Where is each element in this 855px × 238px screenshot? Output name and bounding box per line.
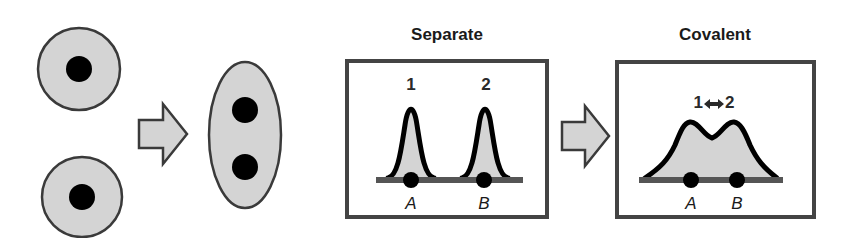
covalent-baseline bbox=[639, 177, 783, 183]
covalent-label-b: B bbox=[717, 194, 757, 214]
separate-title: Separate bbox=[367, 25, 527, 45]
nucleus-a-icon bbox=[683, 172, 699, 188]
peak-label-2: 2 bbox=[466, 75, 506, 95]
covalent-title: Covalent bbox=[635, 25, 795, 45]
nucleus-b-icon bbox=[729, 172, 745, 188]
separate-atom-bottom bbox=[42, 157, 122, 237]
separate-panel-frame bbox=[347, 61, 547, 217]
right-arrow-icon bbox=[562, 106, 609, 166]
double-arrow-icon bbox=[704, 98, 724, 110]
separate-atom-top bbox=[38, 28, 120, 110]
peak-label-1: 1 bbox=[391, 75, 431, 95]
separate-baseline bbox=[376, 177, 523, 183]
covalent-peak-label: 12 bbox=[674, 93, 754, 113]
nucleus-icon bbox=[232, 97, 258, 123]
covalent-label-a: A bbox=[671, 194, 711, 214]
separate-label-b: B bbox=[464, 194, 504, 214]
molecule bbox=[209, 62, 281, 208]
nucleus-a-icon bbox=[403, 172, 419, 188]
nucleus-icon bbox=[232, 154, 258, 180]
right-arrow-icon bbox=[139, 104, 187, 164]
nucleus-icon bbox=[66, 56, 92, 82]
separate-label-a: A bbox=[391, 194, 431, 214]
peak-label-1: 1 bbox=[694, 93, 703, 112]
peak-label-2: 2 bbox=[725, 93, 734, 112]
nucleus-icon bbox=[69, 184, 95, 210]
nucleus-b-icon bbox=[476, 172, 492, 188]
